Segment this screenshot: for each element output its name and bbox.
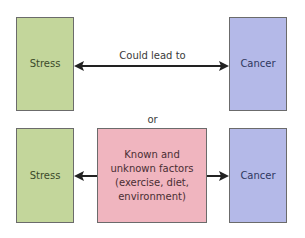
left-arrow-icon bbox=[74, 171, 97, 181]
double-arrow-icon bbox=[74, 61, 229, 71]
arrows bbox=[0, 0, 305, 238]
right-arrow-icon bbox=[207, 171, 229, 181]
